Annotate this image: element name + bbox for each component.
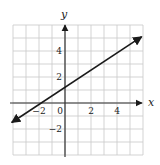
plotted-line [12, 37, 142, 123]
grid-lines [13, 25, 143, 155]
y-tick-label: 2 [56, 72, 62, 82]
x-tick-label: 0 [57, 106, 63, 116]
x-tick-label: 4 [114, 106, 120, 116]
y-tick-label: −2 [49, 124, 62, 134]
x-tick-labels: −2024 [32, 106, 120, 116]
y-tick-label: 4 [56, 46, 62, 56]
x-tick-label: 2 [88, 106, 94, 116]
coordinate-plane: x y −2024 42−2 [0, 0, 160, 165]
x-axis-label: x [148, 96, 155, 109]
y-axis-label: y [60, 8, 68, 21]
